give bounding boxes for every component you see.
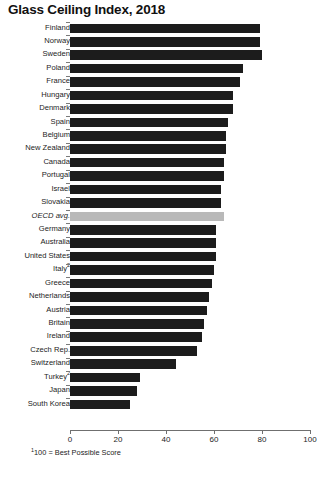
category-label: United States [2, 251, 70, 261]
category-label: Italy2 [2, 264, 70, 274]
bar-row: Poland [0, 62, 328, 75]
bar [70, 306, 207, 316]
bar [70, 332, 202, 342]
bar [70, 171, 224, 181]
category-label: Spain [2, 117, 70, 127]
bar-row: Japan [0, 385, 328, 398]
bar [70, 104, 233, 114]
category-label: France [2, 76, 70, 86]
category-label: Sweden [2, 49, 70, 59]
bar [70, 64, 243, 74]
x-axis-tick [262, 430, 263, 434]
bar-row: Ireland [0, 331, 328, 344]
category-label: Finland [2, 23, 70, 33]
plot-area: FinlandNorwaySwedenPolandFranceHungaryDe… [0, 22, 328, 422]
bar [70, 292, 209, 302]
bar-row: Germany [0, 223, 328, 236]
category-label: Norway [2, 36, 70, 46]
category-label: Poland [2, 63, 70, 73]
category-label: South Korea [2, 399, 70, 409]
category-label: Belgium [2, 130, 70, 140]
bar [70, 118, 228, 128]
footnote-text: 100 = Best Possible Score [34, 448, 121, 457]
bar [70, 77, 240, 87]
bar-row: Britain [0, 317, 328, 330]
glass-ceiling-chart: Glass Ceiling Index, 2018 FinlandNorwayS… [0, 0, 328, 478]
bar-row: OECD avg. [0, 210, 328, 223]
bar-row: Sweden [0, 49, 328, 62]
bar [70, 346, 197, 356]
bar-row: Slovakia [0, 197, 328, 210]
category-label: Slovakia [2, 197, 70, 207]
x-axis-tick-label: 40 [151, 435, 181, 444]
bar-row: France [0, 76, 328, 89]
bar [70, 50, 262, 60]
x-axis-tick [310, 430, 311, 434]
category-label: Israel [2, 184, 70, 194]
category-label: Netherlands [2, 291, 70, 301]
bar-row: United States [0, 250, 328, 263]
x-axis-tick-label: 0 [55, 435, 85, 444]
bar [70, 279, 212, 289]
bar-row: Norway [0, 35, 328, 48]
bar [70, 386, 137, 396]
bar [70, 158, 224, 168]
bar [70, 252, 216, 262]
x-axis-line [70, 430, 310, 431]
category-label: Japan [2, 385, 70, 395]
x-axis-tick-label: 100 [295, 435, 325, 444]
bar [70, 319, 204, 329]
category-label: Canada [2, 157, 70, 167]
bar [70, 37, 260, 47]
bar [70, 225, 216, 235]
category-label: Switzerland [2, 358, 70, 368]
chart-title: Glass Ceiling Index, 2018 [8, 2, 165, 17]
category-label: Britain [2, 318, 70, 328]
bar-row: Hungary [0, 89, 328, 102]
category-label: Portugal [2, 170, 70, 180]
bar-row: Portugal [0, 170, 328, 183]
bar [70, 238, 216, 248]
bar-row: Spain [0, 116, 328, 129]
category-label: Hungary [2, 90, 70, 100]
bar-row: Netherlands [0, 291, 328, 304]
category-label: Ireland [2, 331, 70, 341]
category-label: Denmark [2, 103, 70, 113]
category-label: Turkey2 [2, 372, 70, 382]
bar [70, 185, 221, 195]
category-label: Australia [2, 237, 70, 247]
x-axis-tick [166, 430, 167, 434]
x-axis-tick [214, 430, 215, 434]
bar [70, 24, 260, 34]
bar-row: Australia [0, 237, 328, 250]
category-label: Austria [2, 305, 70, 315]
x-axis-tick-label: 20 [103, 435, 133, 444]
bar-row: Turkey2 [0, 371, 328, 384]
bar [70, 373, 140, 383]
bar-row: Italy2 [0, 264, 328, 277]
bar-row: Denmark [0, 103, 328, 116]
x-axis-tick [118, 430, 119, 434]
bar-row: Belgium [0, 129, 328, 142]
bar-row: South Korea [0, 398, 328, 411]
category-label: Czech Rep. [2, 345, 70, 355]
bar-row: New Zealand [0, 143, 328, 156]
bar [70, 131, 226, 141]
bar-row: Austria [0, 304, 328, 317]
bar-row: Canada [0, 156, 328, 169]
bar-row: Finland [0, 22, 328, 35]
bar-row: Czech Rep. [0, 344, 328, 357]
category-label: Greece [2, 278, 70, 288]
category-label: Germany [2, 224, 70, 234]
x-axis-tick-label: 80 [247, 435, 277, 444]
bar [70, 91, 233, 101]
x-axis-tick-label: 60 [199, 435, 229, 444]
footnote: 1100 = Best Possible Score [31, 448, 121, 457]
bar [70, 400, 130, 410]
bar-row: Switzerland [0, 358, 328, 371]
bar [70, 144, 226, 154]
bar [70, 212, 224, 222]
bar-row: Israel [0, 183, 328, 196]
bar-row: Greece [0, 277, 328, 290]
bar [70, 265, 214, 275]
